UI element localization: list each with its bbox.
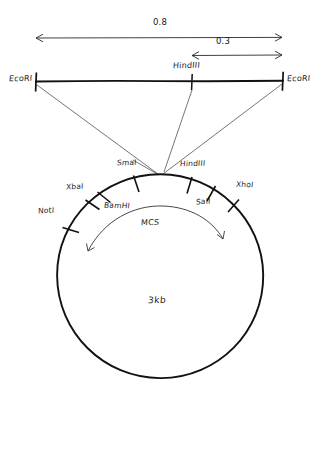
plasmid-label-noti-text: NotI <box>38 207 54 215</box>
circle-site-tick-xbai <box>86 200 100 210</box>
plasmid-label-hindiii-text: HindIII <box>180 160 206 168</box>
plasmid-label-xbai: XbaI <box>66 183 84 191</box>
plasmid-label-sali: SalI <box>196 198 210 206</box>
mcs-label: MCS <box>141 219 159 227</box>
mcs-label-text: MCS <box>141 219 160 227</box>
linear-label-ecori-left: EcoRI <box>9 75 32 83</box>
linear-label-ecori-left-text: EcoRI <box>9 75 33 84</box>
linear-site-tick-ecori-right <box>282 72 283 91</box>
dimension-arrow-0-8 <box>36 34 282 42</box>
plasmid-size-label-text: 3kb <box>148 296 167 305</box>
plasmid-label-sali-text: SalI <box>196 198 211 206</box>
linear-dna-backbone <box>36 81 283 82</box>
dimension-label-0-8: 0.8 <box>153 18 167 27</box>
linear-label-ecori-right-text: EcoRI <box>287 75 311 84</box>
dimension-label-0-3: 0.3 <box>216 37 230 46</box>
plasmid-label-xhoi: XhoI <box>236 181 254 189</box>
circle-site-tick-smai <box>134 176 140 193</box>
linear-site-tick-ecori-left <box>36 73 37 92</box>
linear-label-hindiii: HindIII <box>173 62 200 70</box>
plasmid-label-smai-text: SmaI <box>117 159 137 167</box>
figure-canvas: 0.8 0.3 EcoRI EcoRI HindIII NotI XbaI Ba… <box>0 0 319 451</box>
circle-site-tick-noti <box>63 228 80 233</box>
linear-label-ecori-right: EcoRI <box>287 75 310 83</box>
plasmid-label-bamhi-text: BamHI <box>104 202 131 210</box>
plasmid-label-hindiii: HindIII <box>180 160 205 168</box>
plasmid-label-xbai-text: XbaI <box>66 183 84 191</box>
linear-label-hindiii-text: HindIII <box>173 62 201 71</box>
plasmid-circle <box>57 174 263 378</box>
plasmid-map-drawing <box>0 0 319 451</box>
mcs-arc <box>87 206 225 251</box>
plasmid-label-xhoi-text: XhoI <box>236 181 254 189</box>
plasmid-label-bamhi: BamHI <box>104 202 130 210</box>
dimension-arrow-0-3 <box>192 51 282 59</box>
projection-guide-lines <box>37 84 282 175</box>
plasmid-label-noti: NotI <box>38 207 54 215</box>
plasmid-label-smai: SmaI <box>117 159 137 167</box>
plasmid-size-label: 3kb <box>148 296 166 305</box>
linear-site-tick-hindiii <box>192 74 193 90</box>
